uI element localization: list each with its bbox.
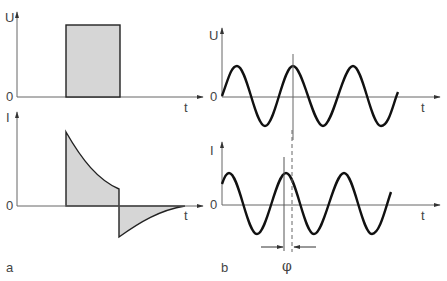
x-axis-label: t xyxy=(184,208,188,223)
y-axis-label: U xyxy=(5,10,14,25)
origin-label: 0 xyxy=(210,89,217,104)
panel-label-a: a xyxy=(6,260,14,275)
x-axis-label: t xyxy=(421,100,425,115)
phase-diagram: U 0 t I 0 t a U 0 t I 0 t φ b xyxy=(0,0,447,281)
voltage-sine xyxy=(222,66,398,126)
charge-current xyxy=(66,132,119,206)
y-axis-label: U xyxy=(209,28,218,43)
phase-angle-label: φ xyxy=(282,258,292,274)
origin-label: 0 xyxy=(6,198,13,213)
y-axis-label: I xyxy=(210,143,214,158)
panel-b-voltage-plot: U 0 t xyxy=(209,28,440,126)
voltage-pulse xyxy=(66,25,120,97)
x-axis-label: t xyxy=(421,208,425,223)
current-sine xyxy=(222,173,391,234)
panel-a-voltage-plot: U 0 t xyxy=(5,10,203,115)
origin-label: 0 xyxy=(210,197,217,212)
phase-shift-annotation: φ xyxy=(261,54,316,274)
x-axis-label: t xyxy=(184,100,188,115)
panel-a-current-plot: I 0 t xyxy=(6,110,203,237)
panel-b-current-plot: I 0 t xyxy=(210,142,440,234)
y-axis-label: I xyxy=(6,110,10,125)
discharge-current xyxy=(119,206,185,237)
origin-label: 0 xyxy=(6,89,13,104)
panel-label-b: b xyxy=(221,260,228,275)
